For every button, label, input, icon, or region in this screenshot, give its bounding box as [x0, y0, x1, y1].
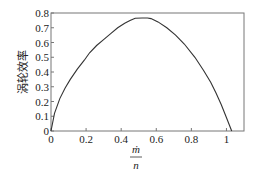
x-tick-label: 0.2 — [79, 133, 93, 145]
y-tick-label: 0.7 — [35, 22, 49, 34]
x-tick-label: 0.8 — [184, 133, 198, 145]
plot-frame — [51, 13, 244, 131]
y-tick-label: 0.3 — [35, 81, 49, 93]
efficiency-curve — [51, 18, 232, 131]
y-axis-label: 涡轮效率 — [16, 50, 30, 94]
x-tick-label: 0.4 — [114, 133, 128, 145]
y-tick-label: 0.6 — [35, 37, 49, 49]
y-tick-label: 0.8 — [35, 7, 49, 19]
y-tick-label: 0.4 — [35, 66, 49, 78]
x-tick-label: 0.6 — [149, 133, 163, 145]
y-tick-label: 0.1 — [35, 110, 49, 122]
x-tick-label: 1 — [224, 133, 230, 145]
x-axis-label-denominator: n — [133, 159, 139, 171]
y-tick-label: 0.2 — [35, 96, 49, 108]
x-tick-label: 0 — [48, 133, 54, 145]
chart: 00.10.20.30.40.50.60.70.8 00.20.40.60.81… — [0, 0, 260, 177]
x-axis-label: ṁ n — [130, 143, 142, 171]
y-tick-label: 0.5 — [35, 51, 49, 63]
x-axis-label-numerator: ṁ — [132, 143, 140, 155]
